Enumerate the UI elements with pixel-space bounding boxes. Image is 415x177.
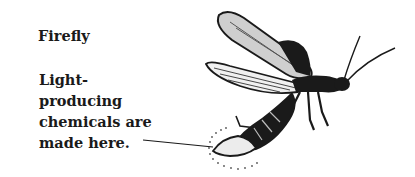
legs (292, 92, 328, 130)
firefly-illustration (0, 0, 415, 177)
antenna (344, 36, 360, 80)
leader-line (143, 140, 213, 147)
head (334, 77, 350, 91)
